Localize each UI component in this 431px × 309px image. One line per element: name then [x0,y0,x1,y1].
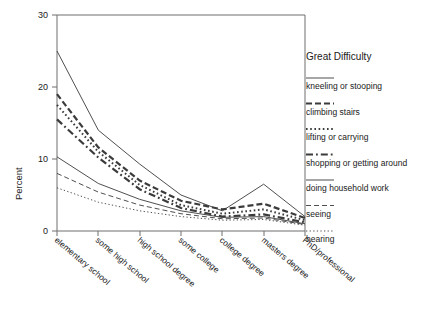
data-series-group [57,51,305,225]
legend-label-hearing: hearing [306,234,335,244]
y-axis-title: Percent [13,167,24,200]
y-tick-label-20: 20 [38,82,48,92]
series-line-shopping-or-getting-around [57,119,305,222]
y-tick-label-0: 0 [43,226,48,236]
legend-label-kneeling-or-stooping: kneeling or stooping [306,81,382,91]
line-chart: 0 10 20 30 Percent elementary school som… [0,0,431,309]
series-line-kneeling-or-stooping [57,51,305,217]
legend-entries: kneeling or stoopingclimbing stairslifti… [306,78,407,244]
y-tick-label-10: 10 [38,154,48,164]
legend-label-lifting-or-carrying: lifting or carrying [306,132,369,142]
legend-label-shopping-or-getting-around: shopping or getting around [306,158,407,168]
chart-legend: Great Difficulty kneeling or stoopingcli… [306,51,407,244]
legend-label-seeing: seeing [306,209,331,219]
series-line-climbing-stairs [57,94,305,218]
legend-label-doing-household-work: doing household work [306,183,389,193]
series-line-hearing [57,188,305,225]
chart-figure: 0 10 20 30 Percent elementary school som… [0,0,431,309]
y-axis-ticks: 0 10 20 30 [38,10,57,236]
legend-label-climbing-stairs: climbing stairs [306,107,360,117]
legend-title: Great Difficulty [306,51,371,62]
y-tick-label-30: 30 [38,10,48,20]
